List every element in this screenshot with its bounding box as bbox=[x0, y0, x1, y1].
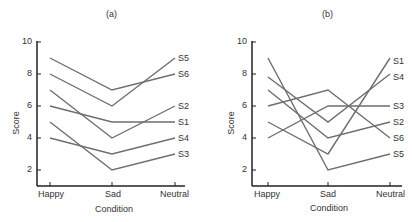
y-tick-4: 4 bbox=[27, 132, 32, 142]
chart-panel-b: (b) 10 8 6 4 2 Score Happy Sad Neutral C… bbox=[206, 0, 412, 222]
series-line-s5 bbox=[50, 58, 175, 106]
y-tick-8: 8 bbox=[242, 68, 247, 78]
series-label-s6: S6 bbox=[178, 69, 189, 79]
chart-panel-a: (a) 10 8 6 4 2 Score Happy Sad Neutral C… bbox=[0, 0, 206, 222]
x-category-neutral: Neutral bbox=[160, 189, 189, 199]
x-category-sad: Sad bbox=[320, 189, 336, 199]
y-tick-10: 10 bbox=[237, 36, 247, 46]
series-line-s6 bbox=[50, 58, 175, 90]
y-tick-10: 10 bbox=[22, 36, 32, 46]
series-label-s4: S4 bbox=[178, 133, 189, 143]
x-category-sad: Sad bbox=[105, 189, 121, 199]
y-axis-label: Score bbox=[11, 111, 21, 135]
y-tick-6: 6 bbox=[27, 100, 32, 110]
x-category-happy: Happy bbox=[254, 189, 280, 199]
series-line-s2 bbox=[268, 90, 390, 138]
x-category-neutral: Neutral bbox=[376, 189, 405, 199]
y-tick-2: 2 bbox=[27, 164, 32, 174]
series-label-s1: S1 bbox=[393, 56, 404, 66]
y-tick-8: 8 bbox=[27, 68, 32, 78]
series-line-s6 bbox=[268, 90, 390, 138]
series-label-s5: S5 bbox=[178, 53, 189, 63]
x-category-happy: Happy bbox=[38, 189, 64, 199]
series-label-s2: S2 bbox=[393, 117, 404, 127]
y-tick-2: 2 bbox=[242, 164, 247, 174]
series-line-s2 bbox=[50, 90, 175, 138]
series-label-s3: S3 bbox=[178, 149, 189, 159]
series-label-s1: S1 bbox=[178, 117, 189, 127]
series-label-s4: S4 bbox=[393, 72, 404, 82]
series-line-s4 bbox=[50, 138, 175, 154]
y-axis-label: Score bbox=[226, 111, 236, 135]
x-axis-label: Condition bbox=[310, 203, 348, 213]
series-label-s6: S6 bbox=[393, 133, 404, 143]
y-tick-6: 6 bbox=[242, 100, 247, 110]
y-tick-4: 4 bbox=[242, 132, 247, 142]
series-line-s3 bbox=[50, 122, 175, 170]
series-line-s4 bbox=[268, 74, 390, 122]
series-label-s2: S2 bbox=[178, 101, 189, 111]
series-label-s5: S5 bbox=[393, 149, 404, 159]
x-axis-label: Condition bbox=[95, 204, 133, 214]
series-line-s1 bbox=[50, 106, 175, 122]
series-label-s3: S3 bbox=[393, 101, 404, 111]
